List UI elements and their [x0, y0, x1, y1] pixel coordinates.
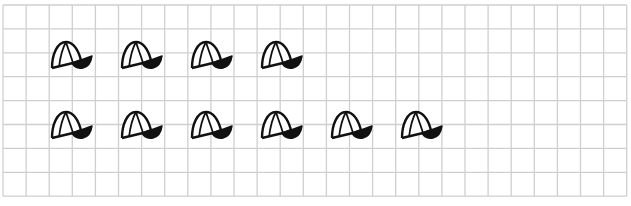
baseball-cap-icon — [400, 109, 444, 141]
baseball-cap-icon — [190, 39, 234, 71]
baseball-cap-icon — [50, 39, 94, 71]
baseball-cap-icon — [50, 109, 94, 141]
baseball-cap-icon — [260, 39, 304, 71]
baseball-cap-icon — [120, 109, 164, 141]
baseball-cap-icon — [190, 109, 234, 141]
baseball-cap-icon — [330, 109, 374, 141]
baseball-cap-icon — [260, 109, 304, 141]
grid-paper — [0, 0, 631, 206]
baseball-cap-icon — [120, 39, 164, 71]
